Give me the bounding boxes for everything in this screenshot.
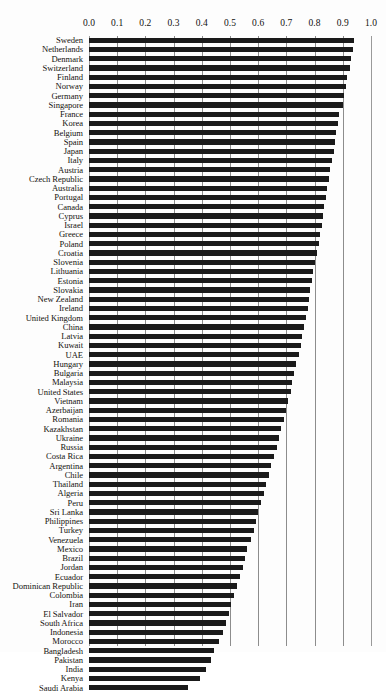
bar-row xyxy=(89,434,371,443)
bar-row xyxy=(89,314,371,323)
bar-row xyxy=(89,286,371,295)
bar xyxy=(89,223,322,228)
bar-row xyxy=(89,443,371,452)
bar xyxy=(89,47,353,52)
x-tick-label: 0.9 xyxy=(337,18,349,28)
bar xyxy=(89,75,347,80)
bar xyxy=(89,204,324,209)
bar xyxy=(89,195,326,200)
bar-row xyxy=(89,647,371,656)
bar xyxy=(89,241,319,246)
bar xyxy=(89,574,240,579)
bar xyxy=(89,593,234,598)
bar xyxy=(89,463,271,468)
bar-row xyxy=(89,637,371,646)
bar xyxy=(89,306,308,311)
bar xyxy=(89,685,188,690)
bar-row xyxy=(89,600,371,609)
x-tick-label: 0.7 xyxy=(280,18,292,28)
bar xyxy=(89,435,279,440)
bar-row xyxy=(89,545,371,554)
bar xyxy=(89,398,288,403)
bar xyxy=(89,250,317,255)
bar xyxy=(89,352,299,357)
bar-row xyxy=(89,517,371,526)
bar-row xyxy=(89,323,371,332)
bar-row xyxy=(89,573,371,582)
bar-row xyxy=(89,45,371,54)
bar xyxy=(89,287,310,292)
bar-row xyxy=(89,110,371,119)
bar xyxy=(89,139,335,144)
bar-row xyxy=(89,563,371,572)
bar xyxy=(89,519,256,524)
bar xyxy=(89,315,306,320)
bar-row xyxy=(89,628,371,637)
bar-row xyxy=(89,119,371,128)
bar xyxy=(89,620,226,625)
category-label-row: Saudi Arabia xyxy=(0,684,86,693)
bar xyxy=(89,509,258,514)
bar-row xyxy=(89,258,371,267)
bar xyxy=(89,500,261,505)
bar xyxy=(89,611,229,616)
bar xyxy=(89,56,351,61)
bar-row xyxy=(89,591,371,600)
bar xyxy=(89,324,304,329)
bar-row xyxy=(89,415,371,424)
x-tick-label: 0.8 xyxy=(309,18,321,28)
bar xyxy=(89,657,211,662)
bar xyxy=(89,38,354,43)
bar-row xyxy=(89,332,371,341)
bar-row xyxy=(89,249,371,258)
bar-row xyxy=(89,471,371,480)
bar-row xyxy=(89,536,371,545)
bar-row xyxy=(89,526,371,535)
gridline xyxy=(371,36,372,646)
bar-row xyxy=(89,610,371,619)
bar-row xyxy=(89,129,371,138)
bar xyxy=(89,389,291,394)
bar-row xyxy=(89,175,371,184)
bar xyxy=(89,445,277,450)
bar xyxy=(89,583,237,588)
bar-row xyxy=(89,425,371,434)
bar xyxy=(89,491,264,496)
bar-row xyxy=(89,138,371,147)
bar xyxy=(89,528,254,533)
x-axis-tick-labels: 0.00.10.20.30.40.50.60.70.80.91.0 xyxy=(0,18,386,32)
bar-row xyxy=(89,452,371,461)
bar-row xyxy=(89,360,371,369)
bar xyxy=(89,102,343,107)
bar xyxy=(89,232,320,237)
bar-row xyxy=(89,388,371,397)
bar-row xyxy=(89,480,371,489)
bar-row xyxy=(89,351,371,360)
x-tick-label: 0.4 xyxy=(196,18,208,28)
bar-row xyxy=(89,508,371,517)
bar-row xyxy=(89,267,371,276)
bar-row xyxy=(89,277,371,286)
bar xyxy=(89,639,219,644)
bar-row xyxy=(89,304,371,313)
bar-row xyxy=(89,554,371,563)
bar-rows xyxy=(89,36,371,693)
bar-row xyxy=(89,295,371,304)
bar xyxy=(89,84,346,89)
bar-row xyxy=(89,184,371,193)
bar-row xyxy=(89,406,371,415)
bar xyxy=(89,537,251,542)
bar xyxy=(89,130,336,135)
bar xyxy=(89,297,309,302)
bar xyxy=(89,65,350,70)
bar-row xyxy=(89,212,371,221)
x-tick-label: 0.1 xyxy=(111,18,123,28)
bar-row xyxy=(89,462,371,471)
bar-row xyxy=(89,221,371,230)
bar-row xyxy=(89,665,371,674)
bar-row xyxy=(89,230,371,239)
bar-row xyxy=(89,619,371,628)
x-tick-label: 0.0 xyxy=(83,18,95,28)
x-tick-label: 0.2 xyxy=(139,18,151,28)
bar-row xyxy=(89,341,371,350)
